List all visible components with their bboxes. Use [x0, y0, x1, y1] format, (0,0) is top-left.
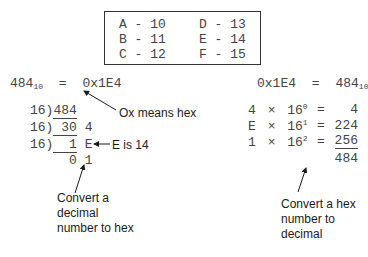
arrow-icon — [84, 91, 116, 110]
arrow-icon — [75, 165, 84, 193]
annotation-arrows — [0, 0, 368, 257]
arrow-icon — [298, 168, 306, 192]
